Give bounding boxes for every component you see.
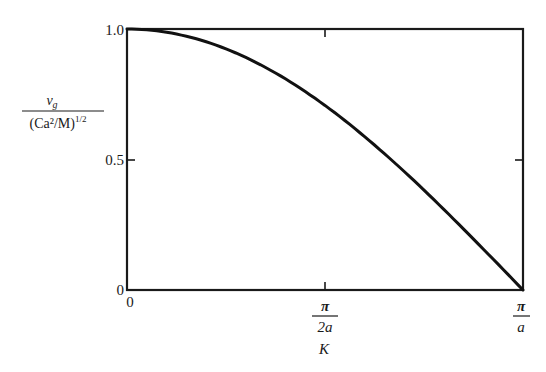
plot-frame <box>127 29 523 290</box>
x-tick-label-0: 0 <box>126 294 134 310</box>
y-label-subscript: g <box>53 99 58 110</box>
x-tick-label-mid-num: π <box>321 298 330 314</box>
y-label-den-base: (Ca²/M) <box>30 116 76 132</box>
chart-canvas: 1.0 0.5 0 0 π 2a K π a vg (Ca²/M)1/2 <box>0 0 546 372</box>
x-tick-label-mid-den: 2a <box>318 319 333 335</box>
y-label-superscript: 1/2 <box>75 114 87 124</box>
y-label-numerator: vg <box>46 93 57 110</box>
y-tick-label-1: 1.0 <box>105 22 124 38</box>
group-velocity-curve <box>127 29 523 290</box>
x-tick-label-end-den: a <box>517 319 525 335</box>
y-label-denominator: (Ca²/M)1/2 <box>30 114 87 132</box>
x-axis-label: K <box>318 341 330 357</box>
y-tick-label-05: 0.5 <box>105 152 124 168</box>
x-tick-label-end-num: π <box>517 298 526 314</box>
y-tick-label-0: 0 <box>117 282 125 298</box>
